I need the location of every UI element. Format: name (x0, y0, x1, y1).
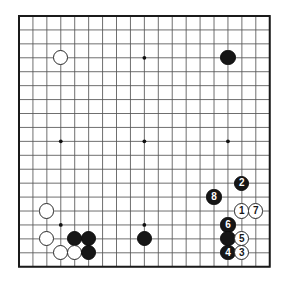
move-stone-7[interactable]: 7 (248, 203, 263, 218)
stone-number: 7 (253, 206, 259, 216)
move-stone-1[interactable]: 1 (234, 203, 249, 218)
stone-number: 4 (225, 247, 231, 257)
stone-number: 6 (225, 219, 231, 229)
stone-black[interactable] (220, 231, 235, 246)
stone-black[interactable] (220, 50, 235, 65)
go-board-diagram: 28176543 (0, 0, 292, 300)
move-stone-4[interactable]: 4 (220, 245, 235, 260)
stone-number: 2 (239, 178, 245, 188)
stone-white[interactable] (39, 203, 54, 218)
stone-number: 1 (239, 206, 245, 216)
stone-number: 5 (239, 233, 245, 243)
move-stone-6[interactable]: 6 (220, 217, 235, 232)
stone-number: 3 (239, 247, 245, 257)
move-stone-8[interactable]: 8 (206, 189, 221, 204)
goban-grid[interactable]: 28176543 (12, 9, 277, 274)
stone-number: 8 (211, 192, 217, 202)
